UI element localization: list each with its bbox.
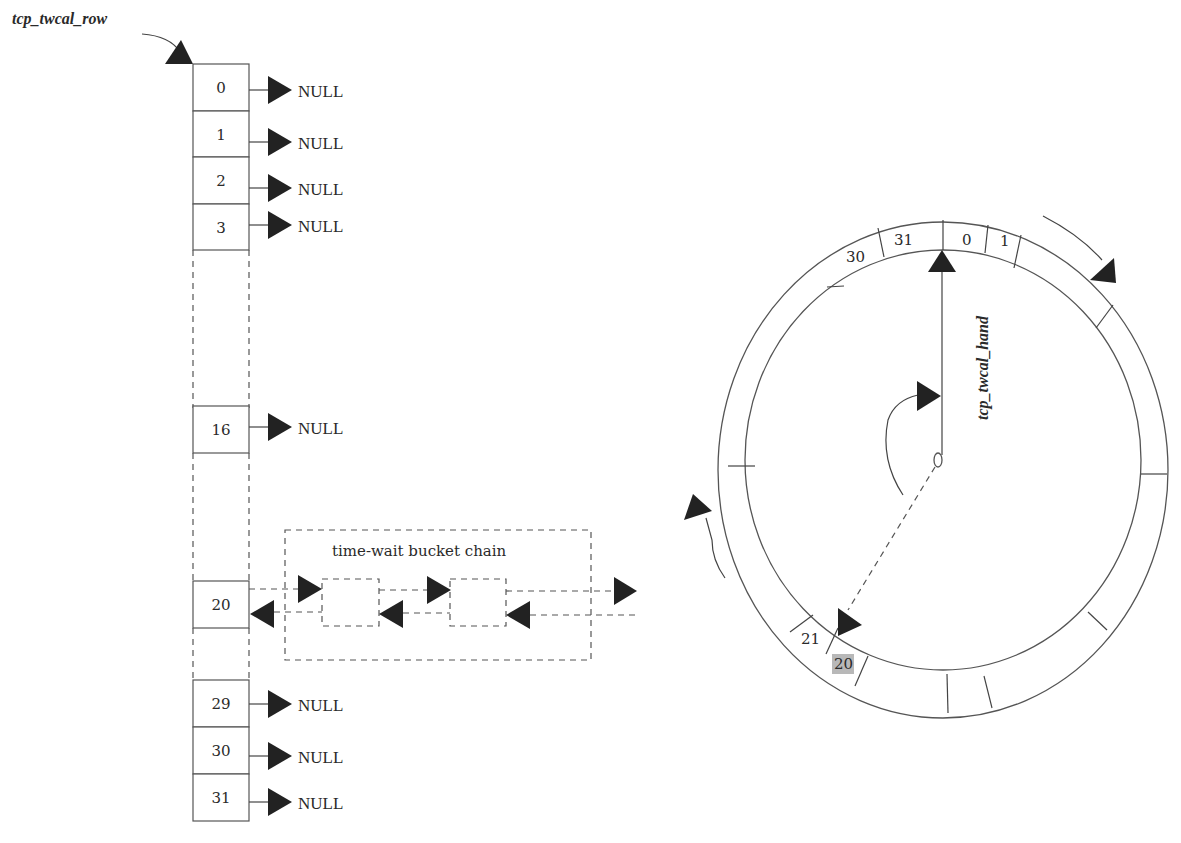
ring-slot-0: 0 [962, 231, 972, 249]
ring-slot-20: 20 [834, 655, 853, 673]
slot-index: 3 [216, 219, 226, 237]
row-slot-16: 16 NULL [193, 406, 343, 453]
wheel-center-pivot [934, 453, 942, 467]
slot-index: 16 [211, 421, 230, 439]
arrow-right-icon [268, 788, 292, 816]
null-label: NULL [298, 134, 343, 153]
slot-index: 2 [216, 172, 226, 190]
arrow-right-icon [268, 174, 292, 202]
bucket-2 [450, 579, 506, 626]
null-label: NULL [298, 419, 343, 438]
arrow-right-icon [268, 413, 292, 441]
row-pointer-arrow-icon [165, 40, 193, 64]
outer-rotation-arrow-top-icon [1090, 258, 1116, 283]
tcp-twcal-hand-label: tcp_twcal_hand [974, 315, 992, 420]
slot-index: 30 [211, 742, 230, 760]
hand-arrow-up-icon [928, 250, 956, 272]
row-slot-20: 20 [193, 581, 249, 628]
wheel-outer-ring [718, 222, 1168, 718]
chain-label: time-wait bucket chain [332, 542, 507, 560]
ring-slot-30: 30 [846, 248, 865, 266]
next-arrow-icon [614, 577, 637, 605]
ring-slot-31: 31 [894, 231, 913, 249]
rotation-arrow-icon [917, 381, 941, 411]
slot-index: 31 [211, 789, 230, 807]
arrow-right-icon [268, 211, 292, 239]
slot-index: 20 [211, 596, 230, 614]
slot-index: 29 [211, 695, 230, 713]
row-slot-1: 1 NULL [193, 111, 343, 157]
null-label: NULL [298, 217, 343, 236]
null-label: NULL [298, 794, 343, 813]
arrow-right-icon [268, 76, 292, 104]
outer-rotation-arrow-left-icon [684, 494, 712, 520]
slot-index: 1 [216, 126, 226, 144]
previous-hand-arrow-icon [838, 608, 862, 636]
ring-slot-1: 1 [1000, 232, 1010, 250]
row-slot-2: 2 NULL [193, 157, 343, 204]
arrow-right-icon [268, 742, 292, 770]
row-slot-30: 30 NULL [193, 727, 343, 774]
row-slot-0: 0 NULL [193, 64, 343, 111]
tcp-twcal-diagram: tcp_twcal_row 0 NULL 1 NULL 2 NULL 3 NUL… [0, 0, 1181, 843]
outer-rotation-arc-left [706, 518, 725, 578]
wheel-inner-ring [745, 250, 1141, 670]
bucket-1 [322, 579, 379, 626]
prev-arrow-icon [506, 601, 530, 629]
row-slot-31: 31 NULL [193, 774, 343, 821]
next-arrow-icon [427, 576, 451, 604]
arrow-right-icon [268, 128, 292, 156]
next-arrow-icon [298, 575, 322, 603]
tcp-twcal-row-label: tcp_twcal_row [12, 10, 107, 28]
ring-slot-21: 21 [801, 630, 820, 648]
null-label: NULL [298, 82, 343, 101]
row-slot-3: 3 NULL [193, 204, 343, 250]
previous-hand-line [848, 467, 935, 610]
arrow-right-icon [268, 690, 292, 718]
rotation-arc [886, 395, 918, 495]
prev-arrow-icon [250, 600, 274, 628]
slot-index: 0 [216, 79, 226, 97]
null-label: NULL [298, 180, 343, 199]
row-pointer-curve [142, 34, 180, 52]
calendar-wheel: 30 31 0 1 21 20 tcp_twcal_hand [684, 216, 1168, 718]
null-label: NULL [298, 748, 343, 767]
row-slot-29: 29 NULL [193, 680, 343, 727]
time-wait-bucket-chain: time-wait bucket chain [249, 530, 640, 660]
null-label: NULL [298, 696, 343, 715]
prev-arrow-icon [379, 600, 403, 628]
